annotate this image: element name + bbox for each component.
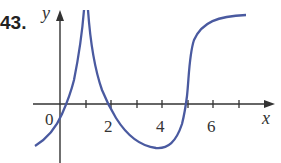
- x-tick-label-4: 4: [156, 117, 165, 136]
- x-tick-label-6: 6: [207, 117, 216, 136]
- graph: 0 2 4 6 x y: [0, 0, 281, 163]
- x-axis-arrow-icon: [264, 100, 275, 108]
- y-axis-label: y: [40, 3, 50, 23]
- x-tick-label-2: 2: [104, 117, 113, 136]
- x-axis-label: x: [261, 108, 270, 128]
- origin-label: 0: [45, 110, 54, 129]
- y-axis-arrow-icon: [56, 10, 64, 21]
